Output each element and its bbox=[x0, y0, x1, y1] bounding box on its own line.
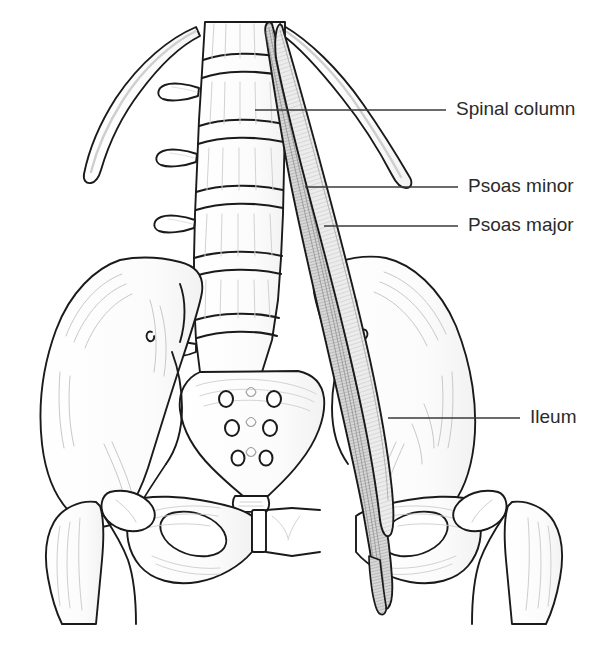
label-psoas-minor: Psoas minor bbox=[468, 176, 574, 195]
ilium-left bbox=[41, 258, 203, 527]
label-spinal-column: Spinal column bbox=[456, 99, 575, 118]
label-psoas-major: Psoas major bbox=[468, 215, 574, 234]
anatomy-figure: Spinal column Psoas minor Psoas major Il… bbox=[0, 0, 609, 645]
pubis-ischium bbox=[127, 497, 481, 584]
pubic-symphysis bbox=[252, 510, 266, 552]
label-ileum: Ileum bbox=[530, 407, 576, 426]
anatomy-illustration bbox=[0, 0, 609, 645]
